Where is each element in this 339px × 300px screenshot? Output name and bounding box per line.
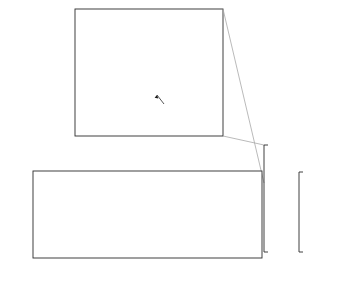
panel-connectors [223, 9, 264, 183]
bottom-panel [33, 145, 303, 258]
figure-svg [0, 0, 339, 300]
top-plot-frame [75, 9, 223, 136]
connector-line-top [223, 9, 264, 183]
top-panel [75, 9, 223, 136]
climate-figure [0, 0, 339, 300]
bottom-plot-frame [33, 171, 262, 258]
connector-line-bottom [223, 136, 264, 145]
